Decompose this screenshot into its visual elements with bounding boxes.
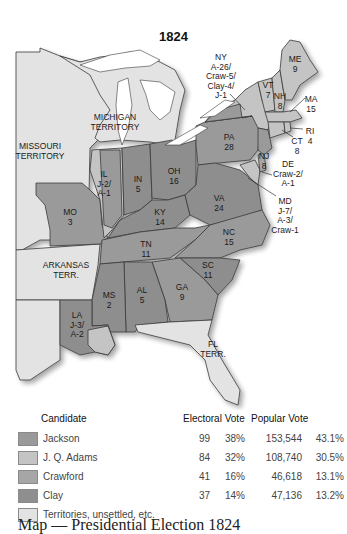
legend-row-jackson: Jackson 99 38% 153,544 43.1% — [18, 432, 338, 446]
popular-count: 108,740 — [250, 452, 302, 463]
header-popular-vote: Popular Vote — [251, 413, 308, 424]
electoral-pct: 16% — [215, 471, 245, 482]
label-ky: KY 14 — [154, 208, 165, 227]
electoral-pct: 38% — [215, 433, 245, 444]
map-title: 1824 — [0, 29, 347, 44]
label-oh: OH 16 — [168, 167, 181, 186]
popular-pct: 13.1% — [304, 471, 344, 482]
electoral-count: 41 — [188, 471, 210, 482]
label-nh: NH 8 — [274, 92, 286, 111]
label-sc: SC 11 — [202, 261, 214, 280]
label-missouri-territory: MISSOURI TERRITORY — [16, 142, 65, 161]
label-il: IL J-2/ A-1 — [97, 170, 111, 199]
electoral-count: 37 — [188, 490, 210, 501]
popular-pct: 13.2% — [304, 490, 344, 501]
label-ms: MS 2 — [103, 291, 116, 310]
candidate-name: J. Q. Adams — [43, 452, 97, 463]
label-la: LA J-3/ A-2 — [70, 311, 84, 340]
label-fl-territory: FL TERR. — [200, 340, 226, 359]
label-md: MD J-7/ A-3/ Craw-1 — [271, 197, 298, 235]
legend-row-clay: Clay 37 14% 47,136 13.2% — [18, 489, 338, 503]
label-arkansas-territory: ARKANSAS TERR. — [43, 261, 89, 280]
label-ri: RI 4 — [306, 127, 315, 146]
popular-count: 46,618 — [250, 471, 302, 482]
label-ct: CT 8 — [291, 137, 302, 156]
label-va: VA 24 — [214, 194, 225, 213]
map-caption: Map — Presidential Election 1824 — [18, 516, 240, 534]
label-tn: TN 11 — [140, 240, 151, 259]
electoral-pct: 32% — [215, 452, 245, 463]
label-nc: NC 15 — [223, 228, 235, 247]
candidate-name: Clay — [43, 490, 63, 501]
candidate-name: Jackson — [43, 433, 80, 444]
region-fl-territory — [135, 320, 240, 405]
label-in: IN 5 — [134, 175, 143, 194]
state-ma — [265, 110, 302, 122]
popular-pct: 43.1% — [304, 433, 344, 444]
swatch-adams — [18, 451, 38, 465]
label-ny: NY A-26/ Craw-5/ Clay-4/ J-1 — [206, 53, 236, 101]
label-mo: MO 3 — [63, 208, 77, 227]
swatch-jackson — [18, 432, 38, 446]
state-ri — [284, 122, 291, 133]
popular-count: 47,136 — [250, 490, 302, 501]
region-unsettled-sw — [16, 300, 60, 380]
label-ma: MA 15 — [305, 95, 318, 114]
label-nj: NJ 8 — [259, 152, 269, 171]
header-candidate: Candidate — [41, 413, 87, 424]
swatch-crawford — [18, 470, 38, 484]
swatch-clay — [18, 489, 38, 503]
legend-row-adams: J. Q. Adams 84 32% 108,740 30.5% — [18, 451, 338, 465]
label-vt: VT 7 — [263, 81, 274, 100]
candidate-name: Crawford — [43, 471, 84, 482]
label-de: DE Craw-2/ A-1 — [273, 160, 303, 189]
popular-pct: 30.5% — [304, 452, 344, 463]
legend-row-crawford: Crawford 41 16% 46,618 13.1% — [18, 470, 338, 484]
label-me: ME 9 — [289, 55, 302, 74]
electoral-pct: 14% — [215, 490, 245, 501]
label-michigan-territory: MICHIGAN TERRITORY — [91, 113, 140, 132]
election-map: 1824 MISSOURI TERRITORY MICHIGAN TERRITO… — [0, 0, 347, 410]
label-al: AL 5 — [137, 286, 147, 305]
electoral-count: 84 — [188, 452, 210, 463]
label-pa: PA 28 — [224, 133, 235, 152]
electoral-count: 99 — [188, 433, 210, 444]
popular-count: 153,544 — [250, 433, 302, 444]
header-electoral-vote: Electoral Vote — [183, 413, 245, 424]
label-ga: GA 9 — [176, 283, 188, 302]
